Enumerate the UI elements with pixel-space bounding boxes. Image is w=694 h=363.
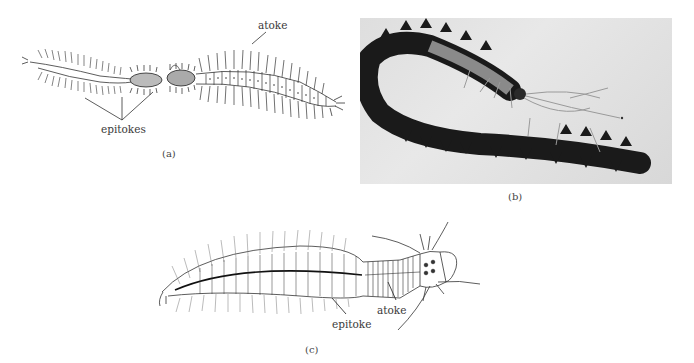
- label-epitoke-c: epitoke: [332, 318, 371, 330]
- label-atoke-c: atoke: [377, 304, 406, 316]
- panel-b-photograph: [360, 18, 672, 184]
- caption-c: (c): [305, 344, 318, 355]
- label-epitokes: epitokes: [101, 123, 146, 135]
- caption-b: (b): [508, 191, 522, 202]
- caption-a: (a): [162, 148, 176, 159]
- label-atoke-a: atoke: [258, 19, 287, 31]
